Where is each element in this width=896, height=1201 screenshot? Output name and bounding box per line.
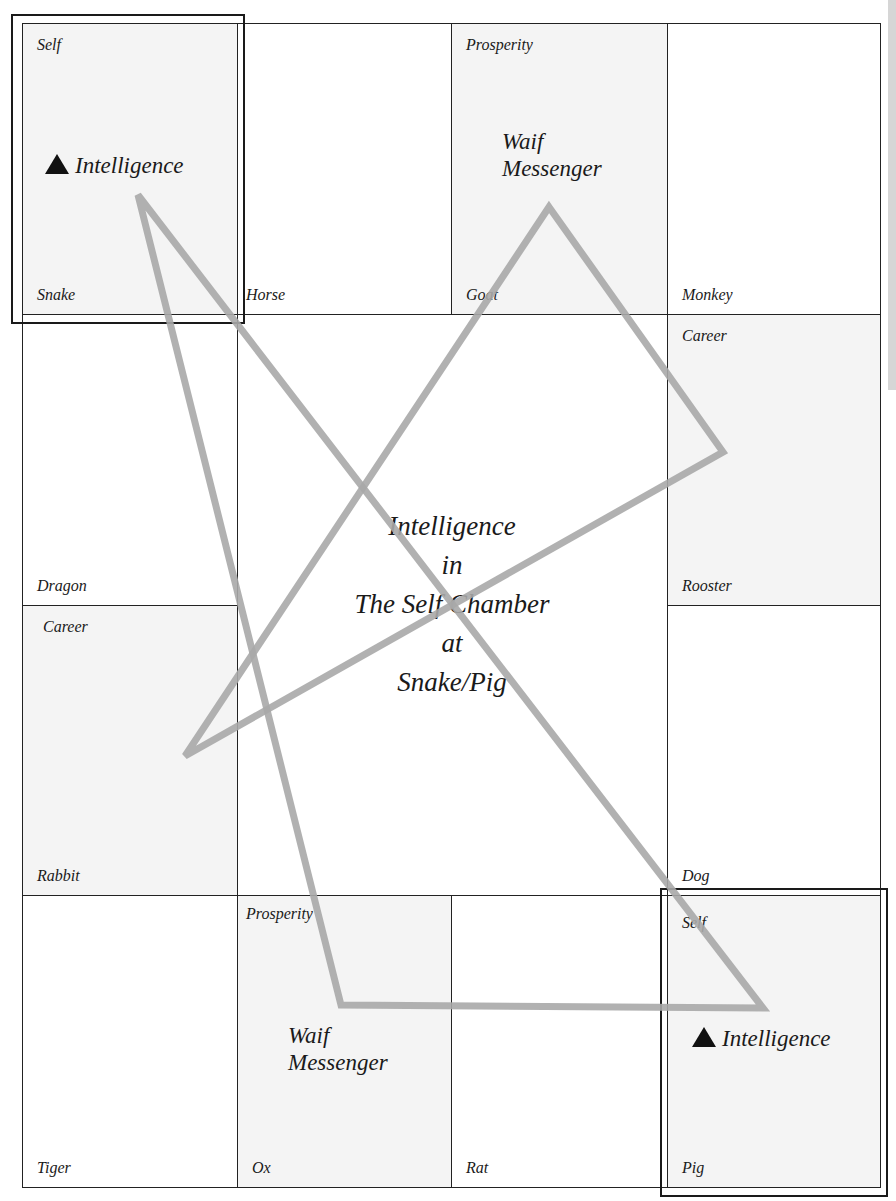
triangle-a-shape [138, 195, 763, 1008]
page-edge [888, 0, 896, 390]
triangle-overlay [0, 0, 896, 1201]
triangle-b-shape [185, 207, 723, 756]
chamber-diagram: Self Intelligence Snake Horse Prosperity… [0, 0, 896, 1201]
